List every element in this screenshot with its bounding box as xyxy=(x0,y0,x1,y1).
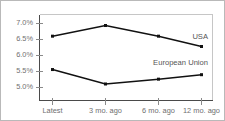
y-axis-tick-labels: 7.0% 6.5% 6.0% 5.5% 5.0% xyxy=(16,18,33,91)
x-tick-label: 6 mo. ago xyxy=(142,106,175,115)
data-point-marker xyxy=(157,35,160,38)
series-label-european-union: European Union xyxy=(153,58,208,67)
data-point-marker xyxy=(104,24,107,27)
data-point-marker xyxy=(104,82,107,85)
line-chart: 7.0% 6.5% 6.0% 5.5% 5.0% Latest 3 mo. ag… xyxy=(0,0,225,121)
y-tick-label: 7.0% xyxy=(16,18,33,27)
series-label-usa: USA xyxy=(192,32,209,41)
data-point-marker xyxy=(51,68,54,71)
data-point-marker xyxy=(157,78,160,81)
series-usa xyxy=(51,24,203,48)
data-point-marker xyxy=(51,35,54,38)
data-point-marker xyxy=(200,45,203,48)
series-line xyxy=(53,26,202,47)
x-tick-label: 12 mo. ago xyxy=(183,106,220,115)
y-tick-label: 5.0% xyxy=(16,82,33,91)
y-tick-label: 6.0% xyxy=(16,50,33,59)
x-axis-tick-labels: Latest 3 mo. ago 6 mo. ago 12 mo. ago xyxy=(42,106,220,115)
x-tick-label: 3 mo. ago xyxy=(89,106,122,115)
chart-canvas: 7.0% 6.5% 6.0% 5.5% 5.0% Latest 3 mo. ag… xyxy=(1,1,225,121)
series-european-union xyxy=(51,68,203,85)
series-line xyxy=(53,70,202,84)
y-tick-label: 6.5% xyxy=(16,34,33,43)
data-point-marker xyxy=(200,73,203,76)
data-series-layer xyxy=(51,24,203,85)
x-tick-label: Latest xyxy=(42,106,62,115)
y-tick-label: 5.5% xyxy=(16,66,33,75)
